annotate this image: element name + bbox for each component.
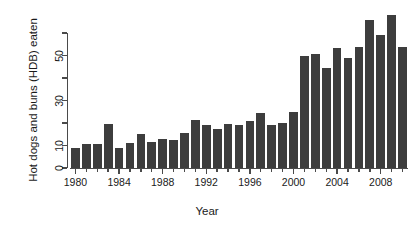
x-tick-label: 1992 <box>186 176 226 188</box>
x-tick <box>293 169 294 174</box>
bar <box>169 140 178 168</box>
bar <box>71 148 80 168</box>
bar <box>180 133 189 168</box>
bar <box>267 125 276 168</box>
x-tick-minor <box>358 169 359 172</box>
x-tick-label: 2008 <box>361 176 401 188</box>
bar <box>158 139 167 168</box>
x-tick-minor <box>391 169 392 172</box>
x-tick <box>162 169 163 174</box>
x-tick-minor <box>151 169 152 172</box>
bar-chart: Hot dogs and buns (HDB) eaten 0103050 19… <box>0 0 414 237</box>
bar <box>235 125 244 168</box>
x-tick <box>118 169 119 174</box>
bar <box>365 20 374 169</box>
x-tick-minor <box>304 169 305 172</box>
bar <box>202 125 211 168</box>
x-tick-minor <box>86 169 87 172</box>
bar <box>104 124 113 168</box>
x-tick-label: 1996 <box>230 176 270 188</box>
x-tick-label: 1984 <box>99 176 139 188</box>
y-tick-label: 50 <box>52 41 66 71</box>
x-tick-label: 2000 <box>274 176 314 188</box>
x-tick-minor <box>238 169 239 172</box>
bar <box>289 112 298 168</box>
x-tick <box>206 169 207 174</box>
bar <box>344 58 353 168</box>
y-tick <box>62 122 67 123</box>
bar <box>300 56 309 169</box>
y-tick <box>62 77 67 78</box>
x-tick-minor <box>326 169 327 172</box>
bar <box>387 15 396 168</box>
bar <box>224 124 233 168</box>
x-tick-minor <box>271 169 272 172</box>
x-tick-label: 1980 <box>55 176 95 188</box>
x-tick-minor <box>315 169 316 172</box>
bar <box>115 148 124 168</box>
bar <box>147 142 156 168</box>
bar <box>311 54 320 168</box>
bar <box>333 48 342 168</box>
bar <box>398 47 407 169</box>
x-tick-minor <box>227 169 228 172</box>
x-tick <box>75 169 76 174</box>
bar <box>322 68 331 168</box>
x-axis-title: Year <box>0 205 414 217</box>
x-tick-minor <box>402 169 403 172</box>
bar <box>246 121 255 168</box>
x-tick-minor <box>129 169 130 172</box>
x-tick-minor <box>216 169 217 172</box>
y-axis-line <box>67 33 68 168</box>
x-tick-minor <box>369 169 370 172</box>
x-tick-minor <box>184 169 185 172</box>
bar <box>355 47 364 169</box>
x-tick-minor <box>140 169 141 172</box>
x-tick-minor <box>282 169 283 172</box>
y-tick <box>62 32 67 33</box>
x-tick <box>336 169 337 174</box>
y-tick-label: 10 <box>52 131 66 161</box>
bar-series <box>70 20 408 168</box>
bar <box>126 143 135 168</box>
bar <box>278 123 287 168</box>
y-axis-title: Hot dogs and buns (HDB) eaten <box>24 10 42 190</box>
x-tick <box>380 169 381 174</box>
x-tick <box>249 169 250 174</box>
bar <box>137 134 146 168</box>
bar <box>256 113 265 168</box>
x-tick-minor <box>173 169 174 172</box>
x-tick-minor <box>107 169 108 172</box>
bar <box>191 120 200 168</box>
x-tick-minor <box>97 169 98 172</box>
x-tick-label: 1988 <box>143 176 183 188</box>
bar <box>213 129 222 168</box>
x-tick-label: 2004 <box>317 176 357 188</box>
y-tick-label: 30 <box>52 86 66 116</box>
bar <box>376 35 385 168</box>
x-tick-minor <box>347 169 348 172</box>
x-tick-minor <box>260 169 261 172</box>
bar <box>93 144 102 168</box>
x-tick-minor <box>195 169 196 172</box>
bar <box>82 144 91 168</box>
